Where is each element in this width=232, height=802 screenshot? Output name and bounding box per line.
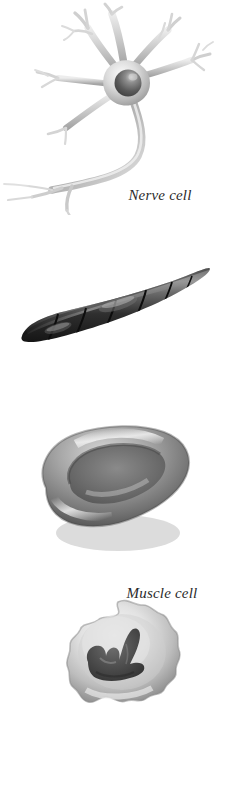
white-blood-cell-illustration	[0, 588, 232, 758]
figure-red-blood-cell: Red blood cell	[0, 400, 232, 580]
white-blood-cell-body	[67, 600, 180, 702]
figure-nerve-cell: Nerve cell	[0, 0, 232, 215]
red-blood-cell-illustration	[0, 400, 232, 580]
muscle-fibre	[20, 268, 210, 346]
illustration-page: Nerve cell	[0, 0, 232, 802]
caption-nerve-cell: Nerve cell	[112, 186, 208, 204]
nerve-cell-illustration	[0, 0, 232, 215]
figure-white-blood-cell: White blood cell	[0, 588, 232, 758]
muscle-cell-illustration	[0, 232, 232, 380]
red-blood-cell-body	[43, 426, 190, 551]
nerve-cell-nucleus	[115, 70, 142, 97]
figure-muscle-cell: Muscle cell	[0, 232, 232, 380]
